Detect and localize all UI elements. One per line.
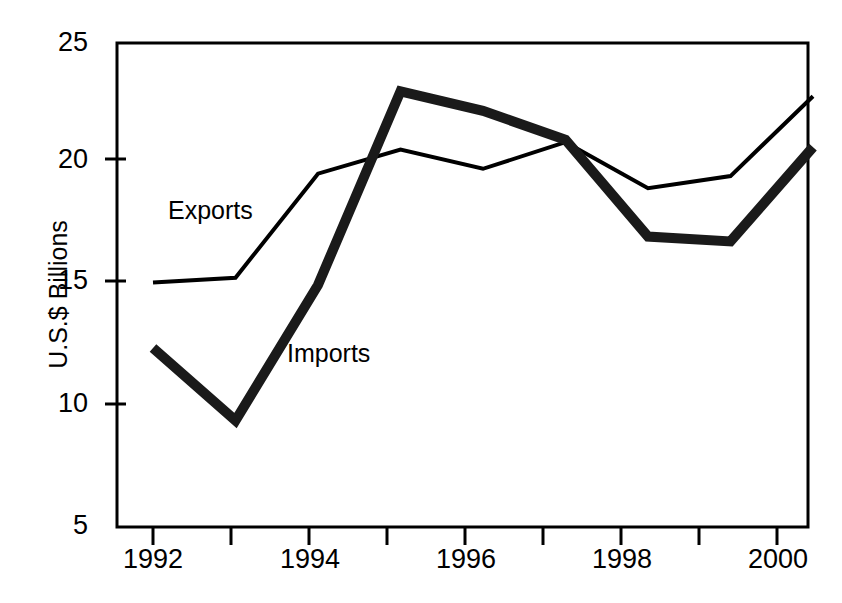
- series-line-exports: [153, 96, 813, 282]
- x-axis-ticks: [153, 527, 777, 545]
- plot-frame: [117, 43, 808, 527]
- chart-page: U.S.$ Billions 25 20 15 10 5 1992 1994 1…: [0, 0, 842, 603]
- line-chart: U.S.$ Billions 25 20 15 10 5 1992 1994 1…: [0, 0, 842, 603]
- plot-canvas: [0, 0, 842, 603]
